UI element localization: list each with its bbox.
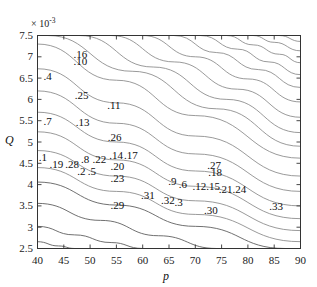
- contour-label: .9: [168, 176, 176, 187]
- contour-label: .21: [219, 184, 233, 195]
- y-tick-label: 3: [8, 222, 33, 233]
- x-tick-label: 90: [287, 255, 315, 266]
- contour-label: .11: [107, 100, 120, 111]
- contour-label: .29: [110, 200, 124, 211]
- contour-label: .3: [175, 197, 183, 208]
- x-tick-label: 75: [208, 255, 236, 266]
- y-tick-label: 3.5: [8, 200, 33, 211]
- plot-frame: [38, 36, 301, 249]
- y-tick-label: 6: [8, 94, 33, 105]
- contour-line: [279, 36, 300, 42]
- contour-label: .12: [192, 181, 206, 192]
- contour-label: .6: [179, 179, 187, 190]
- x-tick-label: 40: [24, 255, 52, 266]
- x-tick-label: 65: [155, 255, 183, 266]
- contour-line: [253, 36, 300, 51]
- contour-label: .4: [44, 71, 52, 82]
- contour-label: .19: [49, 159, 63, 170]
- contour-label: .2: [77, 166, 85, 177]
- x-tick-label: 70: [181, 255, 209, 266]
- x-tick-label: 80: [234, 255, 262, 266]
- y-tick-label: 4: [8, 179, 33, 190]
- x-tick-label: 50: [76, 255, 104, 266]
- x-tick-label: 60: [129, 255, 157, 266]
- contour-plot-figure: × 10-3 Q p 2.533.544.555.566.577.5 40455…: [0, 0, 317, 287]
- contour-label: .14: [109, 150, 123, 161]
- x-tick-label: 55: [102, 255, 130, 266]
- contour-label: .22: [93, 154, 107, 165]
- contour-label: .13: [76, 117, 90, 128]
- y-tick-label: 6.5: [8, 73, 33, 84]
- contour-label: .5: [88, 166, 96, 177]
- y-tick-label: 5: [8, 137, 33, 148]
- contour-label: .23: [110, 173, 124, 184]
- y-tick-label: 5.5: [8, 115, 33, 126]
- plot-canvas: [0, 0, 317, 287]
- contour-label: .17: [124, 150, 138, 161]
- y-axis-multiplier-text: × 10: [31, 18, 49, 29]
- contour-label: .25: [75, 90, 89, 101]
- y-tick-label: 7: [8, 51, 33, 62]
- contour-label: .24: [232, 184, 246, 195]
- axis-frame: [38, 36, 301, 249]
- contour-label: .10: [74, 56, 88, 67]
- contour-label: .32: [161, 195, 175, 206]
- contour-label: .31: [141, 190, 155, 201]
- contour-line: [111, 36, 300, 118]
- x-tick-label: 45: [50, 255, 78, 266]
- y-axis-multiplier-exponent: -3: [49, 16, 55, 25]
- x-axis-label: p: [163, 270, 169, 282]
- contour-label: .1: [39, 152, 47, 163]
- contour-label: .20: [110, 161, 124, 172]
- contour-label: .8: [81, 154, 89, 165]
- contour-label: .7: [44, 116, 52, 127]
- y-tick-label: 4.5: [8, 158, 33, 169]
- contour-line: [38, 242, 75, 249]
- y-axis-multiplier: × 10-3: [31, 19, 55, 29]
- x-tick-label: 85: [260, 255, 288, 266]
- contour-label: .30: [204, 205, 218, 216]
- contour-line-group: [38, 36, 301, 249]
- y-tick-label: 7.5: [8, 30, 33, 41]
- contour-label: .18: [208, 167, 222, 178]
- y-tick-label: 2.5: [8, 243, 33, 254]
- contour-label: .33: [269, 201, 283, 212]
- contour-label: .26: [108, 132, 122, 143]
